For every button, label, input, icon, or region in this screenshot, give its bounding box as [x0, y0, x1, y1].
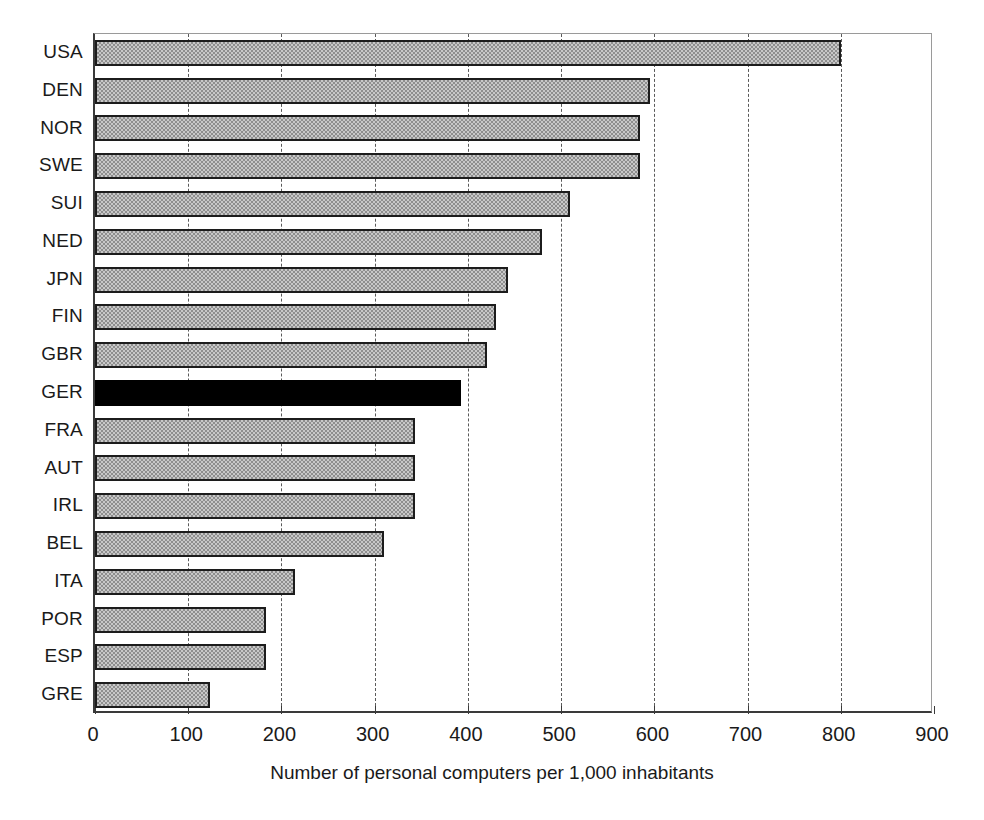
- y-axis-label-ita: ITA: [3, 562, 83, 600]
- bar-row: [95, 525, 931, 563]
- y-axis-label-ger: GER: [3, 373, 83, 411]
- bar-row: [95, 412, 931, 450]
- x-tick-label-500: 500: [542, 723, 575, 746]
- x-tick-label-600: 600: [636, 723, 669, 746]
- bar-row: [95, 563, 931, 601]
- bar-swe: [95, 153, 640, 179]
- x-tick-label-300: 300: [356, 723, 389, 746]
- y-axis-label-gbr: GBR: [3, 335, 83, 373]
- bar-row: [95, 336, 931, 374]
- bar-usa: [95, 40, 841, 66]
- x-tick-label-100: 100: [170, 723, 203, 746]
- y-axis-category-labels: USADENNORSWESUINEDJPNFINGBRGERFRAAUTIRLB…: [0, 33, 83, 713]
- y-axis-label-por: POR: [3, 600, 83, 638]
- bar-row: [95, 223, 931, 261]
- x-axis-title: Number of personal computers per 1,000 i…: [0, 762, 984, 784]
- bar-row: [95, 261, 931, 299]
- bar-bel: [95, 531, 384, 557]
- bar-nor: [95, 115, 640, 141]
- bar-fra: [95, 418, 415, 444]
- bar-fin: [95, 304, 496, 330]
- bar-row: [95, 185, 931, 223]
- x-tick-label-800: 800: [822, 723, 855, 746]
- bar-jpn: [95, 267, 508, 293]
- y-axis-label-bel: BEL: [3, 524, 83, 562]
- y-axis-label-esp: ESP: [3, 637, 83, 675]
- y-axis-label-gre: GRE: [3, 675, 83, 713]
- x-axis-tick-labels: 0100200300400500600700800900: [93, 723, 932, 753]
- bar-row: [95, 34, 931, 72]
- bar-sui: [95, 191, 570, 217]
- bar-irl: [95, 493, 415, 519]
- bar-row: [95, 638, 931, 676]
- x-tick-label-700: 700: [729, 723, 762, 746]
- bar-den: [95, 78, 650, 104]
- y-axis-label-den: DEN: [3, 71, 83, 109]
- y-axis-label-swe: SWE: [3, 146, 83, 184]
- bar-gbr: [95, 342, 487, 368]
- y-axis-label-jpn: JPN: [3, 260, 83, 298]
- x-tick-label-900: 900: [915, 723, 948, 746]
- y-axis-label-usa: USA: [3, 33, 83, 71]
- bar-ger: [95, 380, 461, 406]
- bar-ita: [95, 569, 295, 595]
- bar-row: [95, 110, 931, 148]
- y-axis-label-sui: SUI: [3, 184, 83, 222]
- y-axis-label-irl: IRL: [3, 486, 83, 524]
- y-axis-label-fin: FIN: [3, 297, 83, 335]
- bar-ned: [95, 229, 542, 255]
- x-tick-label-200: 200: [263, 723, 296, 746]
- bar-row: [95, 487, 931, 525]
- bar-row: [95, 72, 931, 110]
- bar-row: [95, 374, 931, 412]
- y-axis-label-nor: NOR: [3, 109, 83, 147]
- y-axis-label-fra: FRA: [3, 411, 83, 449]
- bar-row: [95, 298, 931, 336]
- x-tick-label-0: 0: [87, 723, 98, 746]
- x-tick-label-400: 400: [449, 723, 482, 746]
- bar-row: [95, 601, 931, 639]
- x-tick-mark-900: [934, 706, 935, 714]
- bar-row: [95, 147, 931, 185]
- y-axis-label-aut: AUT: [3, 449, 83, 487]
- bar-aut: [95, 455, 415, 481]
- y-axis-label-ned: NED: [3, 222, 83, 260]
- bar-gre: [95, 682, 210, 708]
- bar-row: [95, 676, 931, 714]
- plot-area: [93, 33, 932, 713]
- bar-row: [95, 450, 931, 488]
- bar-esp: [95, 644, 266, 670]
- bar-por: [95, 607, 266, 633]
- bar-chart: USADENNORSWESUINEDJPNFINGBRGERFRAAUTIRLB…: [0, 0, 984, 820]
